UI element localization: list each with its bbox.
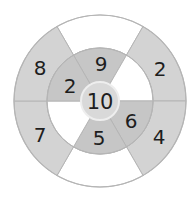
inner-number-top: 9 [95,52,108,76]
inner-number-bottom: 5 [93,126,106,150]
outer-number-bottom-left: 7 [34,123,47,147]
inner-number-bottom-right: 6 [125,109,138,133]
center-number: 10 [87,90,114,114]
outer-number-bottom-right: 4 [153,125,166,149]
outer-number-top-right: 2 [154,57,167,81]
number-wheel-diagram: 2 4 7 8 9 6 5 2 10 [0,0,192,198]
inner-number-top-left: 2 [64,74,77,98]
outer-number-top-left: 8 [34,56,47,80]
